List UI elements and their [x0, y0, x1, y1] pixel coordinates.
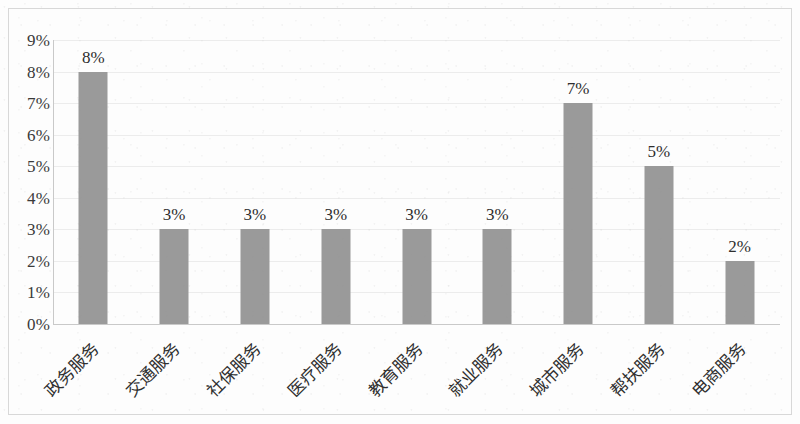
bar: [483, 229, 512, 324]
x-label-slot: 电商服务: [700, 330, 780, 420]
bar-group: 5%: [619, 40, 699, 324]
x-label-slot: 社保服务: [215, 330, 295, 420]
bar-group: 7%: [538, 40, 618, 324]
bar: [240, 229, 269, 324]
bar: [160, 229, 189, 324]
x-label-slot: 帮扶服务: [619, 330, 699, 420]
x-label-slot: 就业服务: [457, 330, 537, 420]
bar-value-label: 3%: [486, 206, 509, 223]
y-tick-label: 6%: [4, 126, 50, 143]
bar-value-label: 3%: [405, 206, 428, 223]
bar-group: 3%: [377, 40, 457, 324]
x-label-slot: 交通服务: [134, 330, 214, 420]
x-label-slot: 城市服务: [538, 330, 618, 420]
y-tick-label: 7%: [4, 95, 50, 112]
x-label-slot: 教育服务: [377, 330, 457, 420]
y-tick-label: 0%: [4, 316, 50, 333]
bar-value-label: 3%: [244, 206, 267, 223]
bar-chart: 9% 8% 7% 6% 5% 4% 3% 2% 1% 0% 8%3%3%3%3%…: [0, 0, 800, 424]
bar: [79, 72, 108, 324]
bar: [725, 261, 754, 324]
bar-value-label: 8%: [82, 49, 105, 66]
bar: [564, 103, 593, 324]
bar-value-label: 2%: [728, 238, 751, 255]
bar-group: 3%: [457, 40, 537, 324]
bar: [644, 166, 673, 324]
y-tick-label: 1%: [4, 284, 50, 301]
x-label-slot: 医疗服务: [296, 330, 376, 420]
bars-layer: 8%3%3%3%3%3%7%5%2%: [53, 40, 780, 324]
y-axis-ticks: 9% 8% 7% 6% 5% 4% 3% 2% 1% 0%: [0, 40, 50, 325]
y-tick-label: 9%: [4, 32, 50, 49]
bar-group: 2%: [700, 40, 780, 324]
bar: [321, 229, 350, 324]
bar-group: 3%: [134, 40, 214, 324]
bar-value-label: 7%: [567, 80, 590, 97]
bar-value-label: 3%: [163, 206, 186, 223]
y-tick-label: 3%: [4, 221, 50, 238]
y-tick-label: 5%: [4, 158, 50, 175]
bar-value-label: 3%: [324, 206, 347, 223]
bar-group: 3%: [215, 40, 295, 324]
y-tick-label: 8%: [4, 63, 50, 80]
y-tick-label: 2%: [4, 252, 50, 269]
x-axis-labels: 政务服务交通服务社保服务医疗服务教育服务就业服务城市服务帮扶服务电商服务: [53, 330, 780, 420]
bar: [402, 229, 431, 324]
y-tick-label: 4%: [4, 189, 50, 206]
x-label-slot: 政务服务: [53, 330, 133, 420]
bar-value-label: 5%: [647, 143, 670, 160]
bar-group: 3%: [296, 40, 376, 324]
bar-group: 8%: [53, 40, 133, 324]
